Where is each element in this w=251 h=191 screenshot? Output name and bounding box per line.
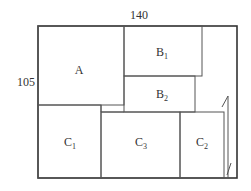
piece-c1-label: C1	[64, 135, 76, 151]
piece-b1: B1	[124, 26, 202, 76]
piece-b2: B2	[124, 76, 195, 112]
break-mark-top	[222, 96, 228, 107]
piece-c1: C1	[38, 105, 101, 178]
piece-b1-label: B1	[156, 45, 168, 61]
piece-c3-label: C3	[135, 135, 147, 151]
piece-c2-label: C2	[196, 135, 208, 151]
piece-a-label: A	[75, 63, 84, 77]
piece-a: A	[38, 26, 124, 105]
cutting-layout-diagram: 140 105 A B1 B2 C1 C3 C2	[0, 0, 251, 191]
piece-c3: C3	[101, 112, 180, 178]
height-dimension-label: 105	[17, 75, 35, 89]
piece-c2: C2	[180, 112, 224, 178]
width-dimension-label: 140	[130, 8, 148, 22]
piece-b2-label: B2	[156, 87, 168, 103]
outer-sheet-boundary	[38, 26, 237, 178]
